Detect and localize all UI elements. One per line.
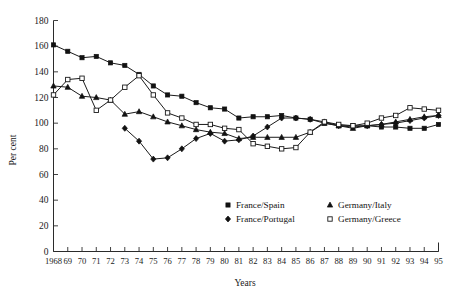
data-point-marker bbox=[422, 107, 426, 111]
data-point-marker bbox=[436, 122, 440, 126]
data-point-marker bbox=[151, 84, 155, 88]
y-tick-label: 160 bbox=[34, 41, 49, 51]
data-point-marker bbox=[194, 101, 198, 105]
x-tick-label: 82 bbox=[249, 256, 258, 266]
legend-label: Germany/Greece bbox=[338, 214, 401, 224]
data-point-marker bbox=[180, 94, 184, 98]
x-tick-label: 95 bbox=[434, 256, 443, 266]
data-point-marker bbox=[94, 54, 98, 58]
x-tick-label: 86 bbox=[306, 256, 315, 266]
y-tick-label: 140 bbox=[34, 67, 49, 77]
data-point-marker bbox=[265, 115, 269, 119]
legend-item-germany-italy: Germany/Italy bbox=[327, 200, 392, 210]
data-point-marker bbox=[66, 77, 70, 81]
x-tick-label: 89 bbox=[349, 256, 358, 266]
x-tick-label: 1968 bbox=[45, 256, 62, 266]
data-point-marker bbox=[308, 130, 312, 134]
data-point-marker bbox=[408, 126, 412, 130]
x-axis-ticks: 1968697071727374757677787980818283848586… bbox=[45, 247, 443, 266]
chart-container: 020406080100120140160180 196869707172737… bbox=[0, 0, 450, 293]
x-tick-label: 94 bbox=[420, 256, 429, 266]
legend-marker bbox=[327, 202, 332, 207]
legend-item-france-portugal: France/Portugal bbox=[225, 214, 295, 224]
y-tick-label: 120 bbox=[34, 93, 49, 103]
y-tick-label: 40 bbox=[39, 195, 49, 205]
legend-label: Germany/Italy bbox=[338, 200, 392, 210]
data-point-marker bbox=[80, 56, 84, 60]
data-point-marker bbox=[51, 93, 55, 97]
x-axis-title: Years bbox=[234, 278, 256, 288]
line-chart: 020406080100120140160180 196869707172737… bbox=[0, 0, 450, 293]
legend-marker bbox=[225, 216, 230, 222]
x-tick-label: 90 bbox=[363, 256, 372, 266]
y-tick-label: 100 bbox=[34, 118, 49, 128]
data-point-marker bbox=[223, 107, 227, 111]
y-tick-label: 180 bbox=[34, 16, 49, 26]
data-point-marker bbox=[251, 142, 255, 146]
x-tick-label: 77 bbox=[178, 256, 187, 266]
x-tick-label: 74 bbox=[135, 256, 144, 266]
data-point-marker bbox=[222, 126, 226, 130]
x-tick-label: 85 bbox=[292, 256, 301, 266]
x-tick-label: 75 bbox=[149, 256, 158, 266]
legend-marker bbox=[226, 203, 230, 207]
x-tick-label: 78 bbox=[192, 256, 201, 266]
series-germany-italy bbox=[51, 83, 441, 141]
data-point-marker bbox=[408, 106, 412, 110]
y-tick-label: 60 bbox=[39, 170, 49, 180]
data-point-marker bbox=[208, 122, 212, 126]
x-tick-label: 72 bbox=[106, 256, 115, 266]
data-point-marker bbox=[94, 108, 98, 112]
x-tick-label: 73 bbox=[120, 256, 129, 266]
y-axis-title: Per cent bbox=[8, 134, 18, 165]
x-tick-label: 76 bbox=[163, 256, 172, 266]
data-point-marker bbox=[336, 122, 340, 126]
x-tick-label: 71 bbox=[92, 256, 101, 266]
data-point-marker bbox=[251, 115, 255, 119]
data-point-marker bbox=[365, 121, 369, 125]
data-point-marker bbox=[351, 124, 355, 128]
data-point-marker bbox=[51, 83, 56, 88]
data-point-marker bbox=[165, 111, 169, 115]
data-point-marker bbox=[237, 127, 241, 131]
data-point-marker bbox=[237, 116, 241, 120]
y-tick-label: 20 bbox=[39, 221, 49, 231]
data-point-marker bbox=[180, 116, 184, 120]
data-point-marker bbox=[80, 76, 84, 80]
data-point-marker bbox=[279, 147, 283, 151]
data-point-marker bbox=[394, 113, 398, 117]
data-point-marker bbox=[322, 120, 326, 124]
x-tick-label: 84 bbox=[277, 256, 286, 266]
data-point-marker bbox=[422, 126, 426, 130]
x-tick-label: 70 bbox=[78, 256, 87, 266]
data-point-marker bbox=[151, 93, 155, 97]
data-point-marker bbox=[108, 61, 112, 65]
data-point-marker bbox=[123, 85, 127, 89]
data-point-marker bbox=[165, 93, 169, 97]
data-point-marker bbox=[265, 144, 269, 148]
x-tick-label: 80 bbox=[220, 256, 229, 266]
series-line bbox=[54, 86, 439, 139]
x-tick-label: 83 bbox=[263, 256, 272, 266]
data-point-marker bbox=[66, 49, 70, 53]
x-tick-label: 81 bbox=[235, 256, 244, 266]
legend-label: France/Portugal bbox=[236, 214, 295, 224]
data-point-marker bbox=[165, 155, 170, 161]
legend-item-germany-greece: Germany/Greece bbox=[328, 214, 401, 224]
data-point-marker bbox=[79, 93, 84, 98]
data-point-marker bbox=[193, 136, 198, 142]
data-point-marker bbox=[179, 146, 184, 152]
x-tick-label: 91 bbox=[377, 256, 386, 266]
x-tick-label: 79 bbox=[206, 256, 215, 266]
data-point-marker bbox=[123, 63, 127, 67]
data-point-marker bbox=[379, 116, 383, 120]
legend-item-france-spain: France/Spain bbox=[226, 200, 285, 210]
x-tick-label: 93 bbox=[406, 256, 415, 266]
data-point-marker bbox=[208, 106, 212, 110]
data-point-marker bbox=[194, 122, 198, 126]
legend: France/SpainFrance/PortugalGermany/Italy… bbox=[225, 200, 400, 224]
legend-label: France/Spain bbox=[236, 200, 285, 210]
x-tick-label: 88 bbox=[334, 256, 343, 266]
y-axis-ticks: 020406080100120140160180 bbox=[34, 16, 58, 257]
data-point-marker bbox=[294, 145, 298, 149]
